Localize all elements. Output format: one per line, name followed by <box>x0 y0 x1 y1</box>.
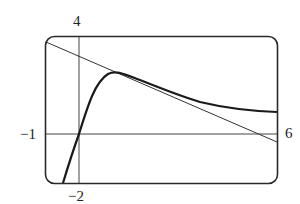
y-axis-top-label: 4 <box>73 14 81 29</box>
graph-canvas <box>0 0 300 204</box>
x-axis-left-label: −1 <box>20 127 36 142</box>
x-axis-right-label: 6 <box>285 126 293 141</box>
y-axis-bottom-label: −2 <box>68 189 84 204</box>
